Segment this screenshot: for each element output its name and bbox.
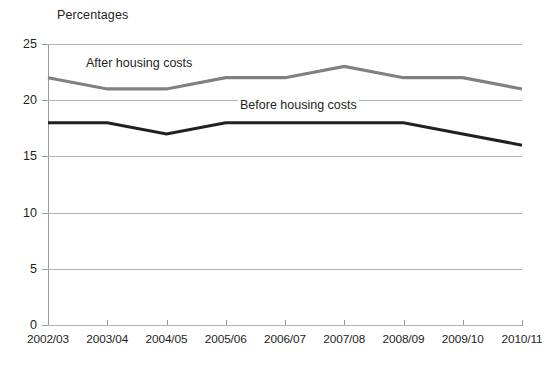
x-tick-label: 2004/05 — [146, 332, 188, 346]
x-tick-mark — [522, 320, 523, 326]
y-tick-label: 15 — [23, 149, 37, 163]
chart-title: Percentages — [57, 8, 128, 22]
x-tick-label: 2003/04 — [86, 332, 128, 346]
y-tick-label: 25 — [23, 37, 37, 51]
series-label-before-housing-costs: Before housing costs — [238, 98, 359, 112]
y-tick-label: 10 — [23, 206, 37, 220]
x-tick-label: 2010/11 — [501, 332, 542, 346]
x-tick-label: 2005/06 — [205, 332, 247, 346]
y-tick-label: 20 — [23, 93, 37, 107]
x-tick-label: 2006/07 — [264, 332, 306, 346]
x-tick-label: 2008/09 — [383, 332, 425, 346]
x-tick-label: 2007/08 — [323, 332, 365, 346]
series-lines — [48, 44, 522, 325]
x-tick-label: 2002/03 — [27, 332, 69, 346]
series-line-before-housing-costs — [48, 123, 522, 145]
plot-area — [48, 44, 522, 325]
line-chart: Percentages 0510152025 2002/032003/04200… — [0, 0, 546, 369]
y-tick-label: 5 — [30, 262, 37, 276]
y-tick-label: 0 — [30, 318, 37, 332]
x-tick-label: 2009/10 — [442, 332, 484, 346]
series-label-after-housing-costs: After housing costs — [84, 56, 194, 70]
